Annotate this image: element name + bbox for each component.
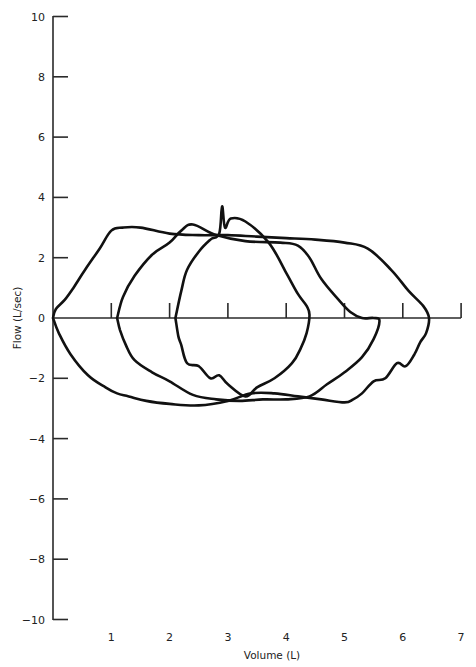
y-axis-title: Flow (L/sec) bbox=[11, 287, 23, 350]
x-tick-label: 3 bbox=[224, 631, 231, 644]
y-tick-label: −8 bbox=[29, 553, 45, 566]
x-tick-label: 6 bbox=[399, 631, 406, 644]
y-tick-label: −2 bbox=[29, 372, 45, 385]
x-tick-label: 2 bbox=[166, 631, 173, 644]
y-tick-label: −10 bbox=[22, 614, 45, 627]
y-tick-label: 10 bbox=[31, 11, 45, 24]
x-tick-label: 1 bbox=[108, 631, 115, 644]
x-tick-label: 7 bbox=[458, 631, 465, 644]
y-tick-label: 8 bbox=[38, 71, 45, 84]
x-axis-ticks: 1234567 bbox=[108, 303, 465, 644]
flow-volume-chart: 1086420−2−4−6−8−10 1234567 Volume (L) Fl… bbox=[0, 0, 476, 667]
x-axis-title: Volume (L) bbox=[244, 649, 300, 661]
flow-volume-loops bbox=[53, 206, 429, 405]
y-tick-label: 2 bbox=[38, 252, 45, 265]
y-tick-label: 4 bbox=[38, 191, 45, 204]
y-tick-label: 6 bbox=[38, 131, 45, 144]
y-tick-label: 0 bbox=[38, 312, 45, 325]
large-loop-curve bbox=[53, 227, 429, 406]
y-tick-label: −6 bbox=[29, 493, 45, 506]
x-tick-label: 4 bbox=[283, 631, 290, 644]
y-tick-label: −4 bbox=[29, 433, 45, 446]
medium-loop-curve bbox=[117, 224, 379, 401]
x-tick-label: 5 bbox=[341, 631, 348, 644]
